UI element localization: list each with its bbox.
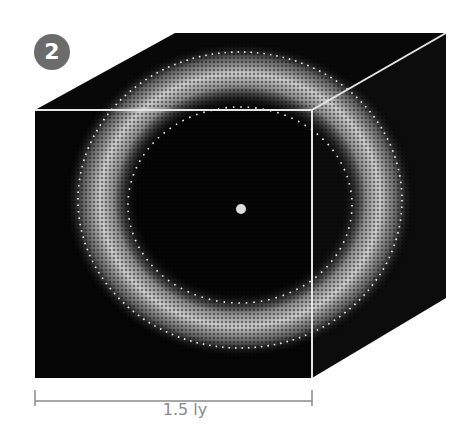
cube-diagram [0, 0, 456, 427]
comet-shell [65, 42, 415, 358]
central-star-icon [236, 204, 246, 214]
scale-label: 1.5 ly [140, 400, 230, 419]
